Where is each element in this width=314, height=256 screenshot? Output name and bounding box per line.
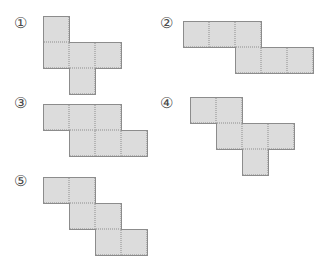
net-outline <box>190 97 191 124</box>
net-outline <box>216 149 243 150</box>
net-cell <box>95 130 121 156</box>
option-2-label: ② <box>160 16 173 31</box>
net-outline <box>43 16 70 17</box>
net-cell <box>43 177 69 203</box>
net-outline <box>121 104 122 131</box>
net-outline <box>69 203 70 230</box>
net-outline <box>121 130 148 131</box>
net-outline <box>235 73 262 74</box>
net-cell <box>95 104 121 130</box>
net-outline <box>69 229 96 230</box>
net-outline <box>268 149 269 176</box>
net-outline <box>43 177 44 204</box>
net-cell <box>43 16 69 42</box>
net-outline <box>313 47 314 74</box>
net-cell <box>69 68 95 94</box>
net-cell <box>69 177 95 203</box>
net-cell <box>69 104 95 130</box>
net-outline <box>95 229 96 256</box>
net-cell <box>95 42 121 68</box>
net-outline <box>242 175 269 176</box>
net-cell <box>69 42 95 68</box>
net-outline <box>190 123 217 124</box>
net-cell <box>43 104 69 130</box>
net-cell <box>121 130 147 156</box>
net-outline <box>43 130 70 131</box>
net-outline <box>69 130 70 157</box>
net-cell <box>216 123 242 149</box>
net-outline <box>183 47 210 48</box>
net-cell <box>235 47 261 73</box>
net-cell <box>209 21 235 47</box>
net-outline <box>294 123 295 150</box>
net-outline <box>183 21 184 48</box>
net-cell <box>95 203 121 229</box>
net-outline <box>43 177 70 178</box>
net-cell <box>190 97 216 123</box>
net-cell <box>43 42 69 68</box>
net-outline <box>216 97 243 98</box>
net-cell <box>95 229 121 255</box>
net-outline <box>209 21 236 22</box>
net-cell <box>287 47 313 73</box>
net-outline <box>268 149 295 150</box>
option-1-label: ① <box>14 16 27 31</box>
net-outline <box>69 16 70 43</box>
net-outline <box>242 149 243 176</box>
option-3-label: ③ <box>14 96 27 111</box>
net-outline <box>121 229 148 230</box>
net-outline <box>95 68 96 95</box>
net-outline <box>287 47 314 48</box>
net-outline <box>121 42 122 69</box>
net-outline <box>69 104 96 105</box>
net-outline <box>95 42 122 43</box>
net-outline <box>69 94 96 95</box>
net-outline <box>95 177 96 204</box>
option-4-label: ④ <box>160 96 173 111</box>
net-outline <box>209 47 236 48</box>
net-outline <box>95 68 122 69</box>
net-outline <box>147 229 148 256</box>
net-outline <box>287 73 314 74</box>
net-cell <box>242 123 268 149</box>
net-outline <box>95 203 122 204</box>
net-outline <box>190 97 217 98</box>
net-outline <box>95 156 122 157</box>
net-outline <box>268 123 295 124</box>
net-outline <box>242 97 243 124</box>
net-outline <box>43 203 70 204</box>
net-outline <box>183 21 210 22</box>
net-outline <box>235 21 262 22</box>
net-outline <box>261 73 288 74</box>
net-outline <box>121 203 122 230</box>
net-outline <box>69 177 96 178</box>
net-outline <box>216 123 217 150</box>
net-outline <box>235 47 236 74</box>
net-cell <box>69 203 95 229</box>
net-outline <box>121 156 148 157</box>
net-outline <box>69 42 96 43</box>
net-outline <box>147 130 148 157</box>
net-outline <box>261 21 262 48</box>
net-cell <box>261 47 287 73</box>
net-cell <box>183 21 209 47</box>
net-outline <box>95 104 122 105</box>
net-outline <box>43 104 70 105</box>
option-5-label: ⑤ <box>14 174 27 189</box>
net-cell <box>69 130 95 156</box>
net-cell <box>121 229 147 255</box>
net-cell <box>216 97 242 123</box>
net-outline <box>43 68 70 69</box>
net-cell <box>242 149 268 175</box>
net-outline <box>69 68 70 95</box>
net-cell <box>268 123 294 149</box>
net-outline <box>261 47 288 48</box>
net-outline <box>43 104 44 131</box>
net-outline <box>43 42 44 69</box>
net-cell <box>235 21 261 47</box>
net-outline <box>242 123 269 124</box>
net-outline <box>43 16 44 43</box>
net-outline <box>69 156 96 157</box>
